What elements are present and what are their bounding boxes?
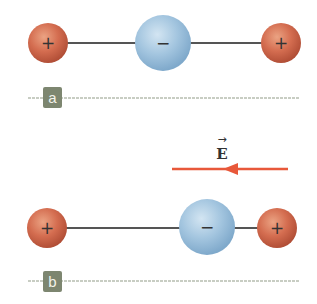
panel-a: + − + a: [28, 15, 301, 108]
plus-sign-icon: +: [40, 218, 54, 238]
minus-sign-icon: −: [156, 33, 170, 53]
panel-label-b: b: [43, 271, 62, 292]
field-label: E: [216, 145, 227, 163]
electric-field: E →: [172, 133, 288, 175]
negative-charge-b: −: [179, 199, 235, 255]
positive-charge-right-a: +: [261, 23, 301, 63]
plus-sign-icon: +: [274, 33, 288, 53]
svg-text:b: b: [48, 273, 56, 290]
plus-sign-icon: +: [270, 218, 284, 238]
negative-charge-a: −: [135, 15, 191, 71]
arrow-left-icon: [223, 163, 238, 175]
positive-charge-left-a: +: [28, 23, 68, 63]
plus-sign-icon: +: [41, 33, 55, 53]
dipole-diagram: + − + a E → + −: [0, 0, 317, 304]
panel-b: + − + b: [27, 199, 300, 292]
minus-sign-icon: −: [200, 217, 214, 237]
svg-text:a: a: [48, 89, 57, 106]
vector-arrow-icon: →: [217, 133, 226, 146]
positive-charge-left-b: +: [27, 208, 67, 248]
positive-charge-right-b: +: [257, 208, 297, 248]
panel-label-a: a: [43, 87, 62, 108]
